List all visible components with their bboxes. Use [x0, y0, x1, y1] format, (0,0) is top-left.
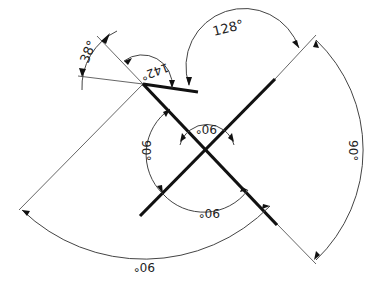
arrowhead-icon — [124, 58, 132, 65]
dimension-label-38: 38° — [77, 38, 100, 65]
dimension-label-128: 128° — [211, 17, 245, 39]
dimension-90-right-outer: 90° — [313, 40, 363, 260]
arrowhead-icon — [292, 40, 299, 48]
cad-drawing-canvas: 38° 142° 128° 90° 90° 90° 90° — [0, 0, 368, 288]
dimension-38: 38° — [77, 31, 117, 90]
arrowhead-icon — [186, 77, 192, 86]
extension-line-left — [78, 76, 143, 84]
arrowhead-icon — [313, 40, 319, 48]
arrowhead-icon — [101, 33, 110, 44]
dimension-label-90-right: 90° — [346, 140, 360, 161]
arrowhead-icon — [157, 185, 163, 194]
extension-line-lower-right — [277, 224, 316, 264]
extension-line-lower-left — [19, 84, 143, 210]
dimension-label-90-bottom: 90° — [199, 206, 220, 220]
dimension-90-bottom-inner: 90° — [163, 187, 248, 220]
dimension-arc-90-bottom-outer — [22, 206, 270, 259]
arrowhead-icon — [22, 210, 30, 216]
geometry-line-nw-se — [143, 84, 277, 225]
dimension-label-90-bottom-outer: 90° — [134, 260, 155, 274]
dimension-90-bottom-outer: 90° — [22, 204, 270, 274]
geometry-lines — [140, 79, 277, 225]
dimension-90-left-inner: 90° — [139, 109, 170, 194]
dimension-arc-128 — [186, 8, 299, 85]
arrowhead-icon — [79, 68, 86, 77]
dimension-label-90-left: 90° — [139, 140, 153, 161]
geometry-line-sw-ne — [140, 79, 275, 216]
arrowhead-icon — [262, 204, 270, 209]
dimension-label-90-top: 90° — [196, 122, 217, 136]
extension-line-upper-left — [97, 36, 143, 84]
dimension-128: 128° — [186, 8, 299, 86]
dimension-label-142: 142° — [139, 60, 171, 83]
